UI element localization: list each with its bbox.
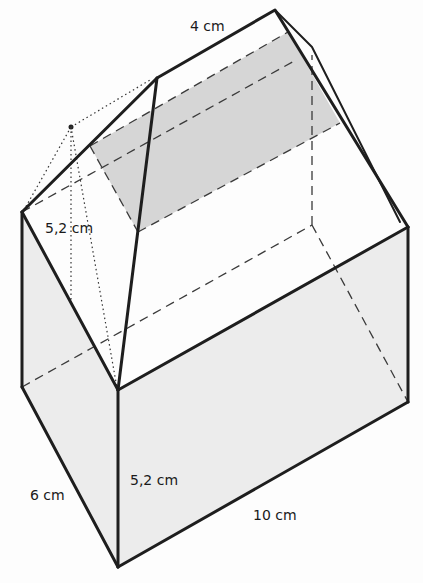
- label-roof-height: 5,2 cm: [45, 220, 93, 236]
- label-depth: 6 cm: [30, 487, 65, 503]
- diagram-canvas: 4 cm 5,2 cm 5,2 cm 6 cm 10 cm: [0, 0, 423, 583]
- left-wall-face: [22, 212, 118, 567]
- label-length: 10 cm: [253, 507, 297, 523]
- label-wall-height: 5,2 cm: [130, 472, 178, 488]
- house-diagram: 4 cm 5,2 cm 5,2 cm 6 cm 10 cm: [0, 0, 423, 583]
- shaded-section: [90, 32, 340, 232]
- label-ridge: 4 cm: [190, 18, 225, 34]
